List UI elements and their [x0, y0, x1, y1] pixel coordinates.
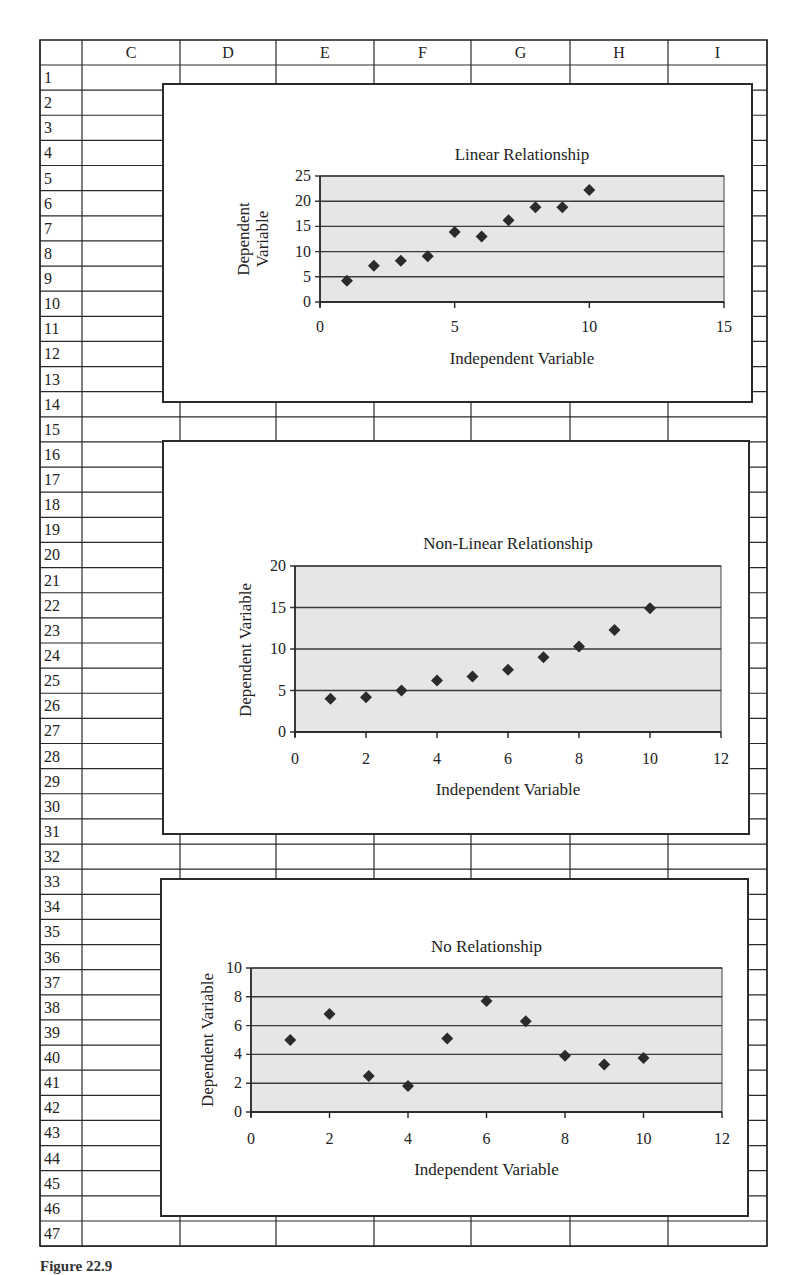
- row-number[interactable]: 32: [44, 848, 60, 865]
- column-header-g[interactable]: G: [515, 44, 527, 61]
- row-number[interactable]: 47: [44, 1225, 60, 1242]
- row-number[interactable]: 18: [44, 496, 60, 513]
- row-number[interactable]: 45: [44, 1175, 60, 1192]
- row-number[interactable]: 26: [44, 697, 60, 714]
- column-header-c[interactable]: C: [126, 44, 137, 61]
- row-number[interactable]: 10: [44, 295, 60, 312]
- row-number[interactable]: 22: [44, 597, 60, 614]
- y-tick-label: 0: [303, 293, 311, 310]
- row-number[interactable]: 43: [44, 1124, 60, 1141]
- row-number[interactable]: 2: [44, 94, 52, 111]
- column-header-f[interactable]: F: [418, 44, 427, 61]
- x-tick-label: 12: [714, 1130, 730, 1147]
- row-number[interactable]: 16: [44, 446, 60, 463]
- chart-title: Linear Relationship: [455, 145, 590, 164]
- x-tick-label: 6: [504, 750, 512, 767]
- svg-text:Dependent: Dependent: [234, 202, 253, 276]
- row-number[interactable]: 14: [44, 396, 60, 413]
- row-number[interactable]: 37: [44, 974, 60, 991]
- row-number[interactable]: 36: [44, 949, 60, 966]
- row-number[interactable]: 17: [44, 471, 60, 488]
- svg-text:Variable: Variable: [253, 211, 272, 268]
- figure-caption: Figure 22.9: [40, 1258, 112, 1275]
- chart-title: Non-Linear Relationship: [423, 534, 593, 553]
- svg-text:Dependent Variable: Dependent Variable: [236, 583, 255, 717]
- row-number[interactable]: 24: [44, 647, 60, 664]
- row-number[interactable]: 23: [44, 622, 60, 639]
- scatter-plot: 05101520024681012Non-Linear Relationship…: [164, 442, 752, 837]
- x-tick-label: 4: [433, 750, 441, 767]
- row-number[interactable]: 5: [44, 170, 52, 187]
- x-tick-label: 6: [483, 1130, 491, 1147]
- row-number[interactable]: 8: [44, 245, 52, 262]
- y-tick-label: 5: [303, 268, 311, 285]
- row-number[interactable]: 29: [44, 773, 60, 790]
- row-number[interactable]: 4: [44, 144, 52, 161]
- row-number[interactable]: 38: [44, 999, 60, 1016]
- x-tick-label: 0: [247, 1130, 255, 1147]
- row-number[interactable]: 15: [44, 421, 60, 438]
- column-header-d[interactable]: D: [222, 44, 234, 61]
- row-number[interactable]: 11: [44, 320, 59, 337]
- y-tick-label: 4: [234, 1045, 242, 1062]
- y-tick-label: 10: [226, 959, 242, 976]
- scatter-plot: 0246810024681012No RelationshipIndepende…: [162, 880, 751, 1219]
- row-number[interactable]: 12: [44, 345, 60, 362]
- row-number[interactable]: 42: [44, 1099, 60, 1116]
- row-number[interactable]: 44: [44, 1150, 60, 1167]
- row-number[interactable]: 28: [44, 748, 60, 765]
- y-tick-label: 0: [278, 723, 286, 740]
- x-tick-label: 10: [636, 1130, 652, 1147]
- row-number[interactable]: 7: [44, 220, 52, 237]
- row-number[interactable]: 3: [44, 119, 52, 136]
- y-tick-label: 20: [295, 192, 311, 209]
- row-number[interactable]: 41: [44, 1074, 60, 1091]
- y-tick-label: 8: [234, 988, 242, 1005]
- chart-no-relationship[interactable]: 0246810024681012No RelationshipIndepende…: [160, 878, 749, 1217]
- chart-non-linear-relationship[interactable]: 05101520024681012Non-Linear Relationship…: [162, 440, 750, 835]
- y-tick-label: 15: [270, 599, 286, 616]
- y-tick-label: 25: [295, 167, 311, 184]
- x-tick-label: 10: [642, 750, 658, 767]
- y-axis-title: Dependent Variable: [236, 583, 255, 717]
- row-number[interactable]: 39: [44, 1024, 60, 1041]
- x-tick-label: 2: [326, 1130, 334, 1147]
- x-axis-title: Independent Variable: [436, 780, 581, 799]
- x-tick-label: 5: [451, 318, 459, 335]
- row-number[interactable]: 35: [44, 923, 60, 940]
- x-tick-label: 2: [362, 750, 370, 767]
- row-number[interactable]: 6: [44, 195, 52, 212]
- chart-linear-relationship[interactable]: 0510152025051015Linear RelationshipIndep…: [162, 83, 753, 403]
- row-number[interactable]: 1: [44, 69, 52, 86]
- row-number[interactable]: 40: [44, 1049, 60, 1066]
- y-tick-label: 2: [234, 1074, 242, 1091]
- row-number[interactable]: 46: [44, 1200, 60, 1217]
- row-number[interactable]: 30: [44, 798, 60, 815]
- x-tick-label: 12: [713, 750, 729, 767]
- x-tick-label: 4: [404, 1130, 412, 1147]
- column-header-i[interactable]: I: [715, 44, 720, 61]
- y-tick-label: 6: [234, 1017, 242, 1034]
- chart-title: No Relationship: [431, 937, 542, 956]
- y-tick-label: 20: [270, 557, 286, 574]
- row-number[interactable]: 9: [44, 270, 52, 287]
- y-tick-label: 0: [234, 1103, 242, 1120]
- row-number[interactable]: 13: [44, 371, 60, 388]
- x-axis-title: Independent Variable: [414, 1160, 559, 1179]
- x-tick-label: 15: [716, 318, 732, 335]
- x-tick-label: 8: [575, 750, 583, 767]
- row-number[interactable]: 34: [44, 898, 60, 915]
- row-number[interactable]: 21: [44, 572, 60, 589]
- x-tick-label: 10: [581, 318, 597, 335]
- column-header-h[interactable]: H: [613, 44, 625, 61]
- y-tick-label: 15: [295, 217, 311, 234]
- row-number[interactable]: 33: [44, 873, 60, 890]
- row-number[interactable]: 20: [44, 546, 60, 563]
- row-number[interactable]: 31: [44, 823, 60, 840]
- y-tick-label: 10: [270, 640, 286, 657]
- column-header-e[interactable]: E: [320, 44, 330, 61]
- row-number[interactable]: 27: [44, 722, 60, 739]
- row-number[interactable]: 25: [44, 672, 60, 689]
- row-number[interactable]: 19: [44, 521, 60, 538]
- x-tick-label: 0: [291, 750, 299, 767]
